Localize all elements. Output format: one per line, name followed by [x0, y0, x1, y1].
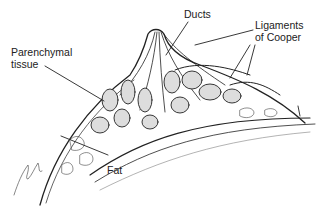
label-ducts: Ducts [184, 8, 211, 20]
label-parenchymal-line2: tissue [11, 58, 38, 70]
label-parenchymal-line1: Parenchymal [11, 46, 72, 58]
skin-contour [40, 30, 305, 206]
leader-ligaments-2 [230, 45, 250, 78]
signature [14, 163, 42, 195]
leader-parenchymal [45, 66, 104, 101]
leader-ligaments-1 [195, 30, 253, 45]
label-ligaments-line1: Ligaments [255, 19, 303, 31]
leader-ligaments-3 [247, 45, 255, 75]
label-ligaments-line2: of Cooper [255, 31, 301, 43]
leader-ducts [166, 22, 188, 55]
leader-fat-2 [298, 106, 300, 116]
anatomy-diagram: Ducts Ligaments of Cooper Parenchymal ti… [0, 0, 326, 212]
label-fat: Fat [107, 164, 122, 176]
